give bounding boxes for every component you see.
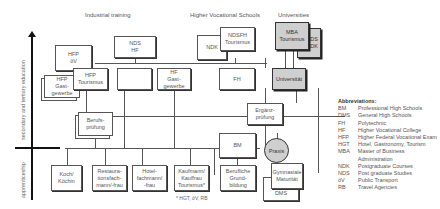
box-nds-hf: NDS HF <box>114 36 156 58</box>
connector <box>293 50 294 68</box>
abbr-value: Public Transport <box>358 177 398 184</box>
box-hf-gastgewerbe: HF Gast- gewerbe <box>157 68 191 90</box>
connector <box>296 88 297 103</box>
abbr-value: Higher Vocational College <box>358 127 421 134</box>
abbr-key: HGT <box>338 141 358 148</box>
abbreviations-legend: Abbreviations: BMProfessional High Schoo… <box>338 98 440 192</box>
abbr-value: Post graduate Studies <box>358 170 412 177</box>
abbr-value: Postgraduate Courses <box>358 163 413 170</box>
connector <box>100 116 345 117</box>
abbr-key: MBA <box>338 148 358 162</box>
abbr-key: NDK <box>338 163 358 170</box>
abbr-value: Professional High Schools <box>358 105 422 112</box>
connector <box>265 58 266 68</box>
connector <box>105 148 106 166</box>
abbr-key: BM <box>338 105 358 112</box>
box-kaufmann-tourismus: Kaufmann/ Kauffrau Tourismus* <box>174 165 209 191</box>
axis-label-upper: secondary and tertiary education <box>20 60 26 140</box>
circle-praxis: Praxis <box>264 138 289 163</box>
connector <box>214 148 215 175</box>
abbr-value: General High Schools <box>358 112 412 119</box>
box-fh: FH <box>219 68 255 90</box>
abbr-value: Higher Federal Vocational Exam <box>358 134 437 141</box>
header-higher-vocational-schools: Higher Vocational Schools <box>190 12 260 18</box>
box-hotelfachmann: Hotel- fachmann/ -frau <box>132 165 167 191</box>
vertical-axis <box>31 36 33 200</box>
connector <box>95 63 267 64</box>
box-universitaet: Universität <box>272 68 306 90</box>
connector <box>95 137 96 148</box>
box-restaurationsfachmann: Restaura- tionsfach- mann/-frau <box>92 165 127 191</box>
header-universities: Universities <box>278 12 309 18</box>
abbr-key: öV <box>338 177 358 184</box>
box-bm: BM <box>219 133 256 158</box>
abbr-value: Hotel, Gastronomy, Tourism <box>358 141 426 148</box>
arrow-up-icon <box>28 31 36 37</box>
abbr-key: FH <box>338 120 358 127</box>
footnote: * HGT, öV, RB <box>176 195 208 201</box>
box-ergaenzpruefung: Ergänz- prüfung <box>247 103 283 125</box>
box-koch: Koch/ Köchin <box>51 165 82 191</box>
connector <box>190 148 191 166</box>
abbr-value: Travel Agencies <box>358 184 397 191</box>
connector <box>124 90 125 148</box>
box-hf-tourismus <box>117 68 152 90</box>
abbr-value: Master of Business Administration <box>358 148 440 162</box>
box-berufspruefung: Berufs- prüfung <box>78 112 113 136</box>
box-berufliche-grundbildung: Berufliche Grund- bildung <box>220 165 256 191</box>
axis-label-lower: apprenticeship <box>20 162 26 198</box>
box-gymnasiale-maturitaet: Gymnasiale Maturität <box>271 163 303 189</box>
connector <box>67 148 68 166</box>
connector <box>318 88 319 173</box>
axis-divider <box>15 147 60 149</box>
box-ndsfh-tourismus: NDSFH Tourismus <box>220 27 255 51</box>
connector <box>135 58 136 63</box>
box-hfp-tourismus: HFP Tourismus <box>73 68 108 90</box>
abbreviations-title: Abbreviations: <box>338 98 440 105</box>
connector <box>174 90 175 148</box>
abbr-key: RB <box>338 184 358 191</box>
abbr-key: HF <box>338 127 358 134</box>
abbr-key: HFP <box>338 134 358 141</box>
abbr-key: DMS <box>338 112 358 119</box>
header-industrial-training: Industrial training <box>85 12 131 18</box>
connector <box>142 148 143 166</box>
connector <box>235 58 236 63</box>
abbr-value: Polytechnic <box>358 120 386 127</box>
abbr-key: NDS <box>338 170 358 177</box>
box-mba-tourismus: MBA Tourismus <box>275 22 309 50</box>
